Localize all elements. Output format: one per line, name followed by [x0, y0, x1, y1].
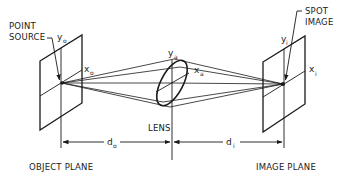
axis-label-xi: x i [309, 64, 317, 77]
axis-label-xo: x o [84, 64, 94, 76]
object-plane [40, 35, 82, 148]
spot-image-label: SPOT [305, 6, 329, 16]
axis-label-yo: y o [57, 32, 67, 44]
axis-label-yi: y i [281, 34, 288, 46]
axis-label-xa: x a [194, 65, 204, 77]
spot-image-dot [281, 82, 285, 86]
svg-text:o: o [90, 69, 94, 76]
svg-text:i: i [286, 39, 288, 46]
axis-label-ya: y a [168, 48, 178, 60]
optical-system-diagram: POINT SOURCE SPOT IMAGE LENS OBJECT PLAN… [0, 0, 347, 179]
lens-label: LENS [148, 123, 171, 133]
image-plane-label: IMAGE PLANE [256, 162, 316, 172]
svg-text:o: o [63, 37, 67, 44]
svg-text:a: a [174, 53, 178, 60]
point-source-label: SOURCE [9, 32, 45, 42]
svg-text:o: o [113, 142, 117, 149]
svg-text:d: d [107, 137, 113, 147]
image-distance-label: d i [226, 137, 235, 149]
object-distance-label: d o [107, 137, 117, 149]
object-plane-label: OBJECT PLANE [29, 162, 93, 172]
svg-text:i: i [233, 142, 235, 149]
spot-image-label: IMAGE [305, 17, 333, 27]
point-source-label: POINT [9, 21, 36, 31]
svg-text:d: d [226, 137, 232, 147]
svg-text:i: i [315, 70, 317, 77]
svg-text:a: a [200, 70, 204, 77]
lens [151, 56, 194, 160]
image-plane [263, 11, 305, 148]
